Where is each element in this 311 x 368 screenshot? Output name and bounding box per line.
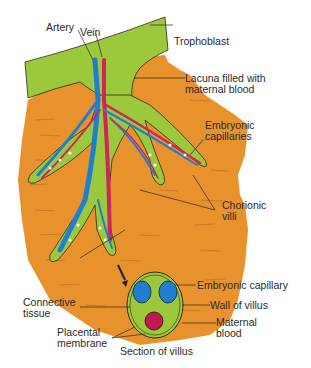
label-placental-membrane: Placental membrane bbox=[57, 327, 107, 349]
label-embryonic-capillary: Embryonic capillary bbox=[197, 280, 288, 291]
label-maternal-blood: Maternal blood bbox=[216, 317, 257, 339]
label-wall-of-villus: Wall of villus bbox=[210, 300, 268, 311]
label-section-of-villus: Section of villus bbox=[120, 346, 193, 357]
label-connective-tissue: Connective tissue bbox=[23, 297, 76, 319]
villus-cross-section bbox=[127, 272, 183, 338]
label-chorionic-villi: Chorionic villi bbox=[222, 200, 266, 222]
label-vein: Vein bbox=[80, 27, 100, 38]
label-trophoblast: Trophoblast bbox=[174, 36, 229, 47]
placenta-diagram: Artery Vein Trophoblast Lacuna filled wi… bbox=[0, 0, 311, 368]
label-artery: Artery bbox=[46, 22, 74, 33]
label-lacuna: Lacuna filled with maternal blood bbox=[185, 73, 266, 95]
label-embryonic-capillaries: Embryonic capillaries bbox=[205, 120, 255, 142]
